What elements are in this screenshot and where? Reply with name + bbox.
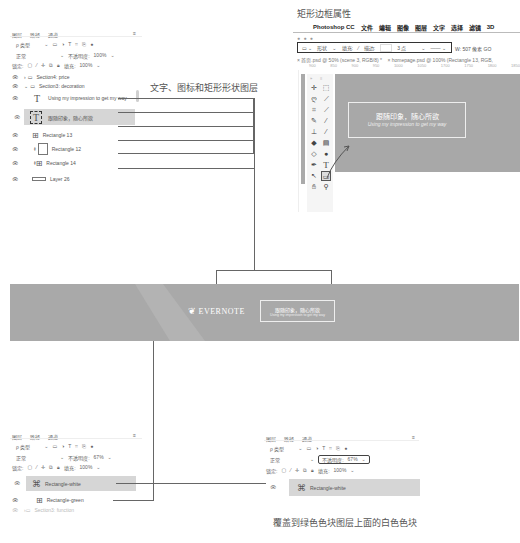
opacity-value[interactable]: 100%	[94, 52, 107, 58]
crop-tool-icon[interactable]: ⌗	[309, 105, 319, 115]
type-filter-icon[interactable]: T	[322, 445, 325, 451]
chevron-down-icon[interactable]: ⌄	[362, 456, 366, 463]
lock-all-icon[interactable]: 🔒︎	[57, 62, 60, 69]
menu-filter[interactable]: 滤镜	[469, 23, 481, 32]
menu-image[interactable]: 图像	[397, 23, 409, 32]
eye-icon[interactable]: 👁︎	[10, 146, 20, 152]
image-filter-icon[interactable]: ▭	[52, 443, 57, 449]
menu-layer[interactable]: 图层	[415, 23, 427, 32]
fill-value[interactable]: 100%	[80, 464, 93, 470]
image-filter-icon[interactable]: ▭	[306, 445, 311, 451]
link-icon[interactable]: GO	[484, 46, 492, 52]
lock-move-icon[interactable]: ✛	[295, 467, 299, 473]
chevron-down-icon[interactable]: ⌄	[96, 464, 100, 470]
shape-tool-icon[interactable]: ▭ ⌄	[302, 45, 312, 51]
opacity-value[interactable]: 67%	[348, 456, 358, 463]
move-tool-icon[interactable]: ✛	[309, 83, 319, 93]
chevron-down-icon[interactable]: ⌄	[108, 454, 112, 460]
lock-all-icon[interactable]: 🔒︎	[311, 467, 314, 474]
menu-app[interactable]: Photoshop CC	[313, 24, 355, 30]
stamp-tool-icon[interactable]: ⊥	[309, 127, 319, 137]
toggle-filter-icon[interactable]: ●	[90, 443, 93, 449]
image-filter-icon[interactable]: ▭	[52, 41, 57, 47]
shape-filter-icon[interactable]: ⌗	[329, 445, 332, 452]
lock-all-icon[interactable]: 🔒︎	[57, 464, 60, 471]
filter-type-select[interactable]: ρ 类型	[16, 443, 30, 450]
menu-type[interactable]: 文字	[433, 23, 445, 32]
stroke-width-input[interactable]: 3 点	[397, 44, 406, 51]
chevron-down-icon[interactable]: ⌄	[44, 41, 48, 47]
eye-icon[interactable]: 👁︎	[10, 176, 20, 182]
blend-mode-select[interactable]: 正常	[270, 456, 280, 463]
opacity-field-highlighted[interactable]: 不透明度: 67% ⌄	[318, 455, 370, 464]
adjustment-filter-icon[interactable]: ◑	[61, 41, 64, 47]
filter-type-select[interactable]: ρ 类型	[270, 445, 284, 452]
smart-object-filter-icon[interactable]: ⎘	[82, 41, 86, 48]
menu-3d[interactable]: 3D	[487, 24, 495, 30]
opacity-value[interactable]: 67%	[94, 454, 104, 460]
toggle-filter-icon[interactable]: ●	[90, 41, 93, 47]
menu-select[interactable]: 选择	[451, 23, 463, 32]
lock-transparent-icon[interactable]: ▢	[281, 467, 286, 473]
window-controls[interactable]: ● ● ●	[297, 35, 314, 41]
marquee-tool-icon[interactable]: ⬚	[321, 83, 331, 93]
adjustment-filter-icon[interactable]: ◑	[315, 445, 318, 451]
lock-move-icon[interactable]: ✛	[41, 464, 45, 470]
shape-filter-icon[interactable]: ⌗	[75, 41, 78, 48]
shape-filter-icon[interactable]: ⌗	[75, 443, 78, 450]
eyedropper-tool-icon[interactable]: ⟋	[321, 105, 331, 115]
eye-icon[interactable]: 👁︎	[14, 114, 20, 120]
lock-transparent-icon[interactable]: ▢	[27, 62, 32, 68]
panel-collapse-strip[interactable]	[301, 74, 305, 184]
toggle-filter-icon[interactable]: ●	[344, 445, 347, 451]
eye-icon[interactable]: 👁︎	[10, 160, 20, 166]
eraser-tool-icon[interactable]: ◆	[309, 138, 319, 148]
blur-tool-icon[interactable]: ◇	[309, 149, 319, 159]
path-select-tool-icon[interactable]: ↖	[309, 171, 319, 181]
lock-move-icon[interactable]: ✛	[41, 62, 45, 68]
chevron-down-icon[interactable]: ⌄	[421, 45, 425, 51]
fill-value[interactable]: 100%	[334, 467, 347, 473]
layer-row[interactable]: 👁︎ Layer 26	[0, 172, 140, 186]
w-value[interactable]: 507 像素	[462, 46, 482, 52]
hand-tool-icon[interactable]: ✋︎	[309, 182, 319, 192]
filter-type-select[interactable]: ρ 类型	[16, 41, 30, 48]
lock-brush-icon[interactable]: ⁄	[36, 62, 37, 68]
stroke-type-select[interactable]: —— ⌄	[431, 45, 447, 51]
layer-row-selected[interactable]: ⌘ Rectangle-white	[289, 479, 420, 496]
pen-tool-icon[interactable]: ✒	[309, 160, 319, 170]
smart-object-filter-icon[interactable]: ⎘	[336, 445, 340, 452]
history-brush-tool-icon[interactable]: ⁄	[321, 127, 331, 137]
chevron-down-icon[interactable]: ⌄	[332, 45, 336, 51]
eye-icon[interactable]: 👁︎	[10, 132, 20, 138]
chevron-down-icon[interactable]: ⌄	[96, 62, 100, 68]
lock-brush-icon[interactable]: ⁄	[290, 467, 291, 473]
adjustment-filter-icon[interactable]: ◑	[61, 443, 64, 449]
smart-object-filter-icon[interactable]: ⎘	[82, 443, 86, 450]
lock-artboard-icon[interactable]: ⧉	[49, 62, 53, 69]
fill-label[interactable]: 填充:	[342, 44, 353, 51]
blend-mode-select[interactable]: 正常	[16, 52, 26, 59]
layer-row[interactable]: 👁︎ › ▭ Section3: function	[0, 503, 140, 517]
chevron-down-icon[interactable]: ⌄	[350, 467, 354, 473]
canvas[interactable]: 跟随印象，随心所欲 Using my impression to get my …	[335, 74, 520, 172]
type-filter-icon[interactable]: T	[68, 443, 71, 449]
stroke-label[interactable]: 描边:	[364, 44, 375, 51]
eye-icon[interactable]: 👁︎	[14, 480, 20, 486]
eye-icon[interactable]: 👁︎	[10, 507, 20, 513]
eye-icon[interactable]: 👁︎	[270, 484, 276, 490]
lock-brush-icon[interactable]: ⁄	[36, 464, 37, 470]
zoom-tool-icon[interactable]: ⚲	[321, 182, 331, 192]
close-icon[interactable]: ×	[297, 57, 300, 63]
healing-tool-icon[interactable]: ✎	[309, 116, 319, 126]
chevron-down-icon[interactable]: ⌄	[44, 443, 48, 449]
eye-icon[interactable]: 👁︎	[10, 83, 20, 89]
lock-artboard-icon[interactable]: ⧉	[49, 464, 53, 471]
fill-value[interactable]: 100%	[80, 62, 93, 68]
chevron-down-icon[interactable]: ⌄	[110, 52, 114, 58]
stroke-color-swatch[interactable]	[380, 44, 392, 52]
blend-mode-select[interactable]: 正常	[16, 454, 26, 461]
shape-mode-select[interactable]: 形状	[317, 44, 327, 51]
lock-artboard-icon[interactable]: ⧉	[303, 467, 307, 474]
lasso-tool-icon[interactable]: ღ	[309, 94, 319, 104]
